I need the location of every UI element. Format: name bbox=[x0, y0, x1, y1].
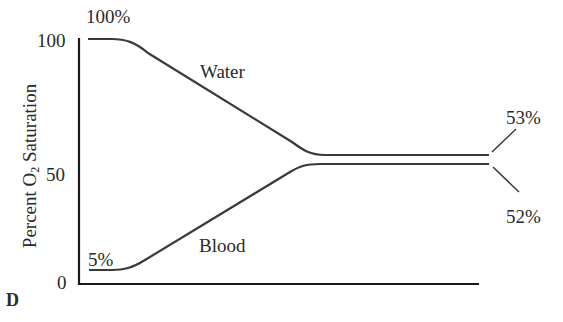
y-tick-50: 50 bbox=[46, 165, 65, 184]
water-curve bbox=[88, 39, 489, 155]
blood-start-label: 5% bbox=[88, 250, 113, 269]
panel-label: D bbox=[6, 291, 19, 309]
water-series-label: Water bbox=[200, 62, 245, 81]
chart-canvas bbox=[0, 0, 563, 322]
y-tick-0: 0 bbox=[57, 273, 67, 292]
blood-end-leader-line bbox=[493, 167, 519, 192]
blood-end-label: 52% bbox=[506, 207, 541, 226]
water-end-leader-line bbox=[492, 129, 516, 152]
oxygen-saturation-chart: 100 50 0 Percent O2 Saturation 100% Wate… bbox=[0, 0, 563, 322]
y-tick-100: 100 bbox=[37, 31, 66, 50]
y-axis-label: Percent O2 Saturation bbox=[19, 84, 43, 248]
water-start-label: 100% bbox=[86, 7, 130, 26]
water-end-label: 53% bbox=[506, 108, 541, 127]
blood-curve bbox=[89, 164, 489, 270]
blood-series-label: Blood bbox=[199, 236, 245, 255]
